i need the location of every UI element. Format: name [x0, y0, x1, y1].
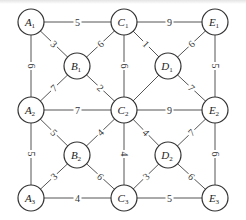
svg-text:5: 5: [167, 193, 172, 204]
svg-text:5: 5: [75, 17, 80, 28]
edge-weight-A2-A3: 5: [26, 150, 37, 158]
svg-text:5: 5: [210, 64, 221, 69]
node-E1: E1: [202, 9, 228, 35]
svg-text:6: 6: [119, 64, 130, 69]
node-E3: E3: [202, 185, 228, 211]
edge-weight-C1-E1: 9: [166, 17, 174, 28]
svg-text:5: 5: [26, 152, 37, 157]
svg-text:7: 7: [75, 105, 80, 116]
svg-text:9: 9: [167, 105, 172, 116]
node-E2: E2: [202, 97, 228, 123]
svg-text:6: 6: [26, 64, 37, 69]
edge-weight-C3-E3: 5: [166, 193, 174, 204]
edge-weight-E2-E3: 6: [210, 150, 221, 158]
node-C3: C3: [111, 185, 137, 211]
edge-weight-A1-A2: 6: [26, 62, 37, 70]
node-A3: A3: [18, 185, 44, 211]
svg-text:4: 4: [75, 193, 80, 204]
node-B2: B2: [64, 142, 90, 168]
edge-weight-A3-C3: 4: [74, 193, 82, 204]
edge-weight-E1-E2: 5: [210, 62, 221, 70]
edge-weight-A2-C2: 7: [74, 105, 82, 116]
edge-weight-C2-C3: 4: [119, 150, 130, 158]
edge-weight-C1-C2: 6: [119, 62, 130, 70]
svg-text:6: 6: [210, 152, 221, 157]
graph-diagram: 593616665727795447546363645 A1C1E1B1D1A2…: [0, 0, 246, 220]
svg-text:4: 4: [119, 152, 130, 157]
edge-weight-C2-E2: 9: [166, 105, 174, 116]
node-C1: C1: [111, 9, 137, 35]
node-D1: D1: [155, 53, 181, 79]
edge-weight-A1-C1: 5: [74, 17, 82, 28]
node-A1: A1: [18, 9, 44, 35]
node-D2: D2: [155, 142, 181, 168]
node-B1: B1: [64, 53, 90, 79]
svg-text:9: 9: [167, 17, 172, 28]
node-C2: C2: [111, 97, 137, 123]
node-A2: A2: [18, 97, 44, 123]
